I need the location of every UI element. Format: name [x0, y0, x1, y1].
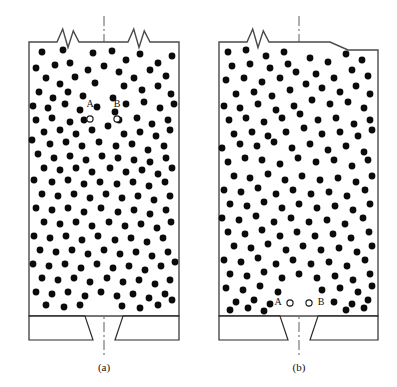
- particle: [142, 267, 149, 274]
- particle: [162, 291, 169, 298]
- particle: [261, 199, 268, 206]
- particle: [163, 73, 170, 80]
- particle: [49, 207, 56, 214]
- particle: [353, 83, 360, 90]
- particle: [81, 117, 88, 124]
- particle: [149, 121, 156, 128]
- particle: [92, 80, 99, 87]
- particle: [273, 261, 280, 268]
- particle: [223, 77, 230, 84]
- particle: [169, 165, 176, 172]
- particle: [236, 217, 243, 224]
- particle: [62, 261, 69, 268]
- particle: [231, 131, 238, 138]
- particle: [57, 81, 64, 88]
- particle: [33, 205, 40, 212]
- particle: [349, 67, 356, 74]
- particle: [169, 53, 176, 60]
- particle: [77, 107, 84, 114]
- particle: [255, 255, 262, 262]
- particle: [233, 299, 240, 306]
- particle: [342, 221, 349, 228]
- particle: [308, 261, 315, 268]
- particle: [39, 49, 46, 56]
- panel-b: AB (b): [219, 16, 378, 374]
- particle: [79, 143, 86, 150]
- tracer-label-b: B: [114, 98, 121, 109]
- particle: [300, 243, 307, 250]
- particle: [87, 195, 94, 202]
- particle: [73, 131, 80, 138]
- particle: [154, 225, 161, 232]
- particle: [267, 65, 274, 72]
- tracer-marker-b: [306, 300, 312, 306]
- particle: [354, 249, 361, 256]
- particle: [287, 87, 294, 94]
- particle: [350, 207, 357, 214]
- particle: [229, 63, 236, 70]
- particle: [90, 50, 97, 57]
- particle: [301, 125, 308, 132]
- particle: [65, 89, 72, 96]
- particle: [361, 105, 368, 112]
- particle: [273, 191, 280, 198]
- particle: [116, 69, 123, 76]
- particle: [331, 299, 338, 306]
- particle: [62, 101, 69, 108]
- particle: [155, 60, 162, 67]
- particle: [114, 293, 121, 300]
- tracer-label-b: B: [318, 296, 325, 307]
- particle: [79, 237, 86, 244]
- particle: [360, 215, 367, 222]
- particle: [168, 91, 175, 98]
- particle: [369, 243, 376, 250]
- particle: [89, 223, 96, 230]
- particle: [126, 263, 133, 270]
- particle: [319, 131, 326, 138]
- particle: [61, 304, 68, 311]
- particle: [319, 287, 326, 294]
- particle: [241, 75, 248, 82]
- particle: [349, 301, 356, 308]
- particle: [139, 167, 146, 174]
- particle: [57, 127, 64, 134]
- particle: [325, 59, 332, 66]
- particle: [97, 179, 104, 186]
- particle: [355, 289, 362, 296]
- particle: [243, 115, 250, 122]
- particle: [326, 259, 333, 266]
- particle: [231, 243, 238, 250]
- tracer-label-a: A: [274, 296, 282, 307]
- particle: [225, 159, 232, 166]
- particle: [324, 217, 331, 224]
- particle: [129, 141, 136, 148]
- particle: [99, 153, 106, 160]
- particle: [30, 103, 37, 110]
- particle: [327, 101, 334, 108]
- particle: [306, 219, 313, 226]
- particle: [283, 129, 290, 136]
- particle: [146, 183, 153, 190]
- particle: [261, 119, 268, 126]
- particle: [244, 203, 251, 210]
- particle: [112, 237, 119, 244]
- particle: [60, 47, 67, 54]
- particle: [297, 111, 304, 118]
- particle: [71, 275, 78, 282]
- particle: [226, 117, 233, 124]
- particle: [36, 89, 43, 96]
- particle: [330, 231, 337, 238]
- particle: [115, 155, 122, 162]
- particle: [296, 271, 303, 278]
- particle: [114, 181, 121, 188]
- particle: [247, 175, 254, 182]
- particle: [249, 129, 256, 136]
- particle: [144, 239, 151, 246]
- particle: [251, 297, 258, 304]
- particle: [138, 221, 145, 228]
- particle: [147, 67, 154, 74]
- particle: [317, 177, 324, 184]
- particle: [55, 193, 62, 200]
- particle: [318, 247, 325, 254]
- particle: [344, 193, 351, 200]
